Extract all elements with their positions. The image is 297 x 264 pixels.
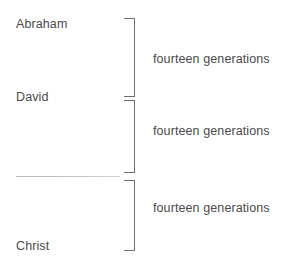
bracket-spine (134, 100, 135, 173)
node-label-abraham: Abraham (16, 17, 67, 31)
bracket-spine (134, 180, 135, 251)
bracket-tick-bottom (124, 172, 135, 173)
bracket-spine (134, 18, 135, 97)
node-label-blank-rule (16, 176, 120, 177)
node-label-david: David (16, 90, 48, 104)
genealogy-bracket-diagram: Abraham David Christ fourteen generation… (0, 0, 297, 264)
span-label-2: fourteen generations (153, 124, 270, 138)
bracket-tick-bottom (124, 96, 135, 97)
span-label-3: fourteen generations (153, 201, 270, 215)
span-label-1: fourteen generations (153, 52, 270, 66)
bracket-tick-bottom (124, 250, 135, 251)
node-label-christ: Christ (16, 239, 49, 253)
